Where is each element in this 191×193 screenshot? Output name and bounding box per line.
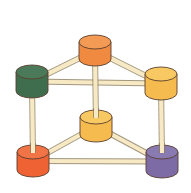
node-top-orange bbox=[79, 35, 111, 66]
node-right-yellow bbox=[145, 67, 177, 100]
rod-bottom-left-red-bottom-right-purple bbox=[33, 161, 162, 162]
node-left-green bbox=[16, 65, 48, 98]
prism-diagram bbox=[0, 0, 191, 193]
diagram-canvas bbox=[0, 0, 191, 193]
rods-layer bbox=[32, 51, 162, 162]
